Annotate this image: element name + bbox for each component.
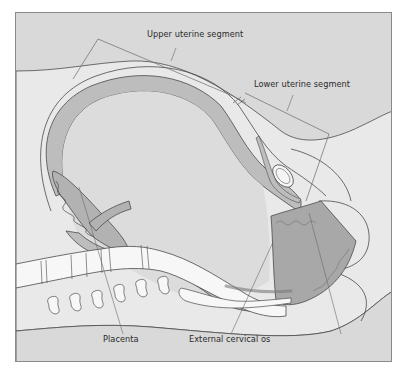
label-upper-uterine-segment: Upper uterine segment [147,29,243,39]
label-placenta: Placenta [103,334,139,344]
label-external-cervical-os: External cervical os [189,334,270,344]
uterus-illustration [16,13,392,362]
label-lower-uterine-segment: Lower uterine segment [254,79,350,89]
diagram-frame [15,12,392,362]
